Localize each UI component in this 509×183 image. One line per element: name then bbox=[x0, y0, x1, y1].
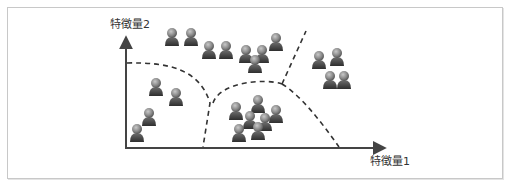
cluster-diagram bbox=[0, 0, 509, 183]
right-cluster bbox=[312, 48, 351, 89]
person-icon bbox=[149, 78, 163, 96]
boundary-lower-right bbox=[282, 84, 339, 147]
person-icon bbox=[169, 88, 183, 106]
person-icon bbox=[202, 41, 216, 59]
person-icon bbox=[229, 102, 243, 120]
y-axis-label: 特徴量2 bbox=[110, 15, 150, 31]
person-icon bbox=[142, 108, 156, 126]
person-icon bbox=[269, 105, 283, 123]
person-icon bbox=[269, 33, 283, 51]
person-icon bbox=[130, 124, 144, 142]
top-cluster bbox=[165, 28, 283, 73]
left-cluster bbox=[130, 78, 183, 142]
person-icon bbox=[184, 28, 198, 46]
person-icon bbox=[337, 71, 351, 89]
person-icon bbox=[251, 95, 265, 113]
data-points bbox=[130, 28, 351, 142]
person-icon bbox=[312, 51, 326, 69]
x-axis-label: 特徴量1 bbox=[370, 152, 410, 168]
boundary-upper-right bbox=[282, 31, 306, 84]
boundary-middle bbox=[213, 81, 282, 103]
person-icon bbox=[219, 41, 233, 59]
person-icon bbox=[323, 71, 337, 89]
person-icon bbox=[165, 28, 179, 46]
person-icon bbox=[330, 48, 344, 66]
bottom-middle-cluster bbox=[229, 95, 283, 142]
